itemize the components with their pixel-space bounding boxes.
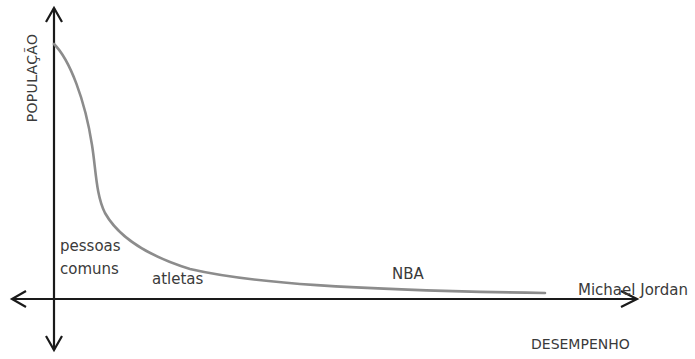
distribution-curve [54, 44, 545, 293]
chart-canvas [0, 0, 695, 359]
label-atletas: atletas [152, 270, 203, 288]
label-pessoas: pessoas [60, 237, 121, 255]
x-axis-label: DESEMPENHO [531, 336, 630, 353]
y-axis-label: POPULAÇÃO [24, 18, 40, 138]
label-nba: NBA [392, 265, 424, 283]
label-michael-jordan: Michael Jordan [578, 281, 688, 299]
label-comuns: comuns [60, 260, 119, 278]
